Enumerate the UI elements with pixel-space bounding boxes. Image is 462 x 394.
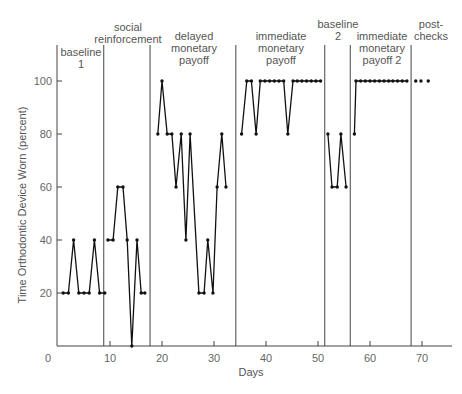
y-tick-label: 60 [40,181,52,193]
data-point [116,185,119,188]
data-series [62,79,430,347]
data-point [250,79,253,82]
data-point [135,238,138,241]
series-post-checks [414,79,430,82]
y-tick-label: 80 [40,128,52,140]
data-point [188,132,191,135]
series-delayed-monetary-payoff [156,79,228,294]
data-point [240,132,243,135]
data-point [391,79,394,82]
data-point [296,79,299,82]
data-point [373,79,376,82]
data-point [254,132,257,135]
data-point [273,79,276,82]
data-point [106,238,109,241]
data-point [419,79,422,82]
series-line [108,187,145,346]
data-point [263,79,266,82]
data-point [160,79,163,82]
series-social-reinforcement [106,185,146,347]
phase-labels: baseline1socialreinforcementdelayedmonet… [61,18,449,70]
phase-label: immediatemonetarypayoff [256,30,307,66]
phase-label: socialreinforcement [94,21,161,45]
data-point [180,132,183,135]
data-point [170,132,173,135]
data-point [310,79,313,82]
series-line [242,81,321,134]
data-point [197,291,200,294]
data-point [277,79,280,82]
series-baseline-1 [62,238,107,294]
series-line [63,240,105,293]
data-point [354,79,357,82]
data-point [93,238,96,241]
data-point [368,79,371,82]
data-point [174,185,177,188]
data-point [401,79,404,82]
data-point [314,79,317,82]
data-point [130,344,133,347]
data-point [336,185,339,188]
data-point [111,238,114,241]
data-point [305,79,308,82]
data-point [330,185,333,188]
data-point [245,79,248,82]
data-point [344,185,347,188]
x-tick-label: 70 [416,352,428,364]
data-point [220,132,223,135]
y-tick-label: 20 [40,287,52,299]
data-point [184,238,187,241]
x-axis-title: Days [238,366,264,378]
data-point [211,291,214,294]
data-point [72,238,75,241]
data-point [166,132,169,135]
x-tick-label: 50 [312,352,324,364]
series-immediate-monetary-payoff [240,79,322,135]
data-point [427,79,430,82]
x-tick-label: 0 [45,352,51,364]
data-point [259,79,262,82]
y-tick-label: 100 [34,75,52,87]
series-line [328,134,346,187]
phase-label: baseline2 [318,18,359,42]
data-point [143,291,146,294]
data-point [82,291,85,294]
x-tick-label: 10 [104,352,116,364]
data-point [339,132,342,135]
data-point [206,238,209,241]
data-point [300,79,303,82]
y-tick-label: 40 [40,234,52,246]
phase-label: delayedmonetarypayoff [171,30,217,66]
data-point [405,79,408,82]
x-tick-label: 20 [156,352,168,364]
data-point [156,132,159,135]
x-tick-label: 40 [260,352,272,364]
data-point [67,291,70,294]
data-point [291,79,294,82]
phase-label: immediatemonetarypayoff 2 [357,30,408,66]
data-point [359,79,362,82]
axes: 20406080100010203040506070 [34,45,452,364]
data-point [202,291,205,294]
data-point [326,132,329,135]
data-point [353,132,356,135]
data-point [282,79,285,82]
data-point [319,79,322,82]
x-tick-label: 60 [364,352,376,364]
data-point [268,79,271,82]
data-point [62,291,65,294]
data-point [364,79,367,82]
series-line [354,81,407,134]
data-point [378,79,381,82]
data-point [396,79,399,82]
data-point [224,185,227,188]
data-point [215,185,218,188]
data-point [103,291,106,294]
phase-label: post-checks [414,18,449,42]
data-point [414,79,417,82]
data-point [286,132,289,135]
data-point [121,185,124,188]
data-point [98,291,101,294]
data-point [88,291,91,294]
phase-separators [104,45,411,346]
